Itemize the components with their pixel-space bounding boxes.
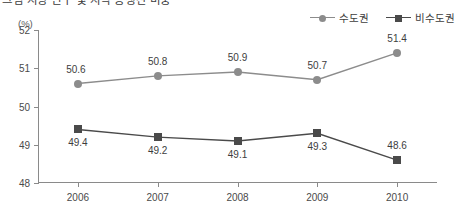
data-point-label: 51.4: [387, 33, 406, 44]
data-point-label: 50.7: [308, 60, 327, 71]
data-point-marker: [313, 129, 321, 137]
y-axis-tick: [34, 183, 39, 184]
data-point-marker: [154, 133, 162, 141]
data-point-label: 49.3: [308, 141, 327, 152]
legend-circle-marker-icon: [310, 13, 335, 23]
legend-label: 비수도권: [415, 10, 455, 25]
data-point-label: 49.1: [228, 149, 247, 160]
data-point-marker: [313, 76, 321, 84]
data-point-label: 49.4: [68, 137, 87, 148]
data-point-marker: [234, 137, 242, 145]
y-axis-tick-label: 50: [19, 101, 30, 112]
y-axis-tick-label: 49: [19, 139, 30, 150]
chart-title: 그림 지방 인구 및 지역 총생산 비중: [2, 0, 171, 7]
legend-item-sudogwon: 수도권: [310, 10, 369, 25]
y-axis-tick-label: 52: [19, 25, 30, 36]
legend-label: 수도권: [339, 10, 369, 25]
data-point-label: 50.9: [228, 52, 247, 63]
legend-square-marker-icon: [386, 13, 411, 23]
plot-area: 4849505152 20062007200820092010 50.650.8…: [38, 30, 437, 183]
x-axis-tick-label: 2006: [67, 192, 89, 203]
legend-item-bisudogwon: 비수도권: [386, 10, 455, 25]
data-point-label: 50.6: [66, 64, 85, 75]
y-axis-tick-label: 48: [19, 178, 30, 189]
x-axis-tick-label: 2010: [386, 192, 408, 203]
data-point-marker: [74, 125, 82, 133]
data-point-label: 48.6: [387, 140, 406, 151]
x-axis-tick-label: 2007: [147, 192, 169, 203]
chart-container: 그림 지방 인구 및 지역 총생산 비중 수도권 비수도권 (%) 484950…: [0, 0, 463, 209]
data-point-marker: [393, 156, 401, 164]
data-point-marker: [234, 68, 242, 76]
x-axis-tick-label: 2008: [226, 192, 248, 203]
data-point-label: 49.2: [148, 145, 167, 156]
data-point-marker: [74, 80, 82, 88]
chart-legend: 수도권 비수도권: [310, 10, 455, 25]
data-point-marker: [154, 72, 162, 80]
data-point-label: 50.8: [148, 56, 167, 67]
y-axis-tick-label: 51: [19, 63, 30, 74]
data-point-marker: [393, 49, 401, 57]
x-axis-tick-label: 2009: [306, 192, 328, 203]
